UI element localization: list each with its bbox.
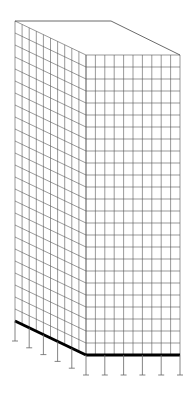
building-mesh-diagram xyxy=(0,0,193,396)
right-face-mesh xyxy=(86,55,180,355)
roof-outline xyxy=(15,21,180,55)
base-line xyxy=(15,321,180,355)
roof-back-right-edge xyxy=(111,21,180,55)
left-face-mesh xyxy=(15,21,86,355)
supports xyxy=(12,321,183,375)
